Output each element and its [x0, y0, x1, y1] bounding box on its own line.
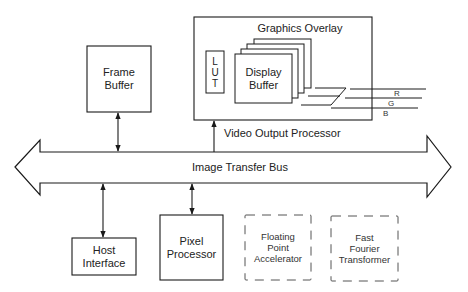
frame-buffer-label: Frame Buffer: [87, 46, 151, 112]
pixel-processor-line-1: Pixel: [180, 235, 204, 248]
lut-letter-l: L: [212, 56, 218, 67]
output-b-label: B: [383, 109, 388, 118]
fast-fourier-transformer-label: Fast Fourier Transformer: [331, 216, 398, 281]
graphics-overlay-label: Graphics Overlay: [244, 22, 356, 35]
video-output-processor-label: Video Output Processor: [224, 127, 354, 140]
image-transfer-bus-label: Image Transfer Bus: [170, 161, 310, 174]
fpa-line-1: Floating: [261, 231, 295, 242]
fpa-line-2: Point: [267, 242, 289, 253]
floating-point-accelerator-label: Floating Point Accelerator: [245, 215, 311, 280]
fpa-line-3: Accelerator: [254, 253, 302, 264]
pixel-processor-label: Pixel Processor: [160, 215, 223, 280]
lut-letter-t: T: [212, 78, 218, 89]
fft-line-1: Fast: [355, 232, 373, 243]
output-g-label: G: [388, 99, 394, 108]
display-buffer-label: Display Buffer: [235, 54, 292, 103]
display-buffer-line-2: Buffer: [249, 79, 278, 92]
display-buffer-line-1: Display: [245, 66, 281, 79]
host-interface-line-1: Host: [93, 244, 116, 257]
lut-label: L U T: [206, 51, 224, 93]
host-interface-line-2: Interface: [83, 257, 126, 270]
fft-line-3: Transformer: [339, 254, 390, 265]
lut-letter-u: U: [211, 67, 218, 78]
host-interface-label: Host Interface: [72, 238, 136, 275]
fft-line-2: Fourier: [349, 243, 379, 254]
frame-buffer-line-2: Buffer: [104, 79, 133, 92]
pixel-processor-line-2: Processor: [167, 248, 217, 261]
output-r-label: R: [394, 89, 400, 98]
frame-buffer-line-1: Frame: [103, 66, 135, 79]
